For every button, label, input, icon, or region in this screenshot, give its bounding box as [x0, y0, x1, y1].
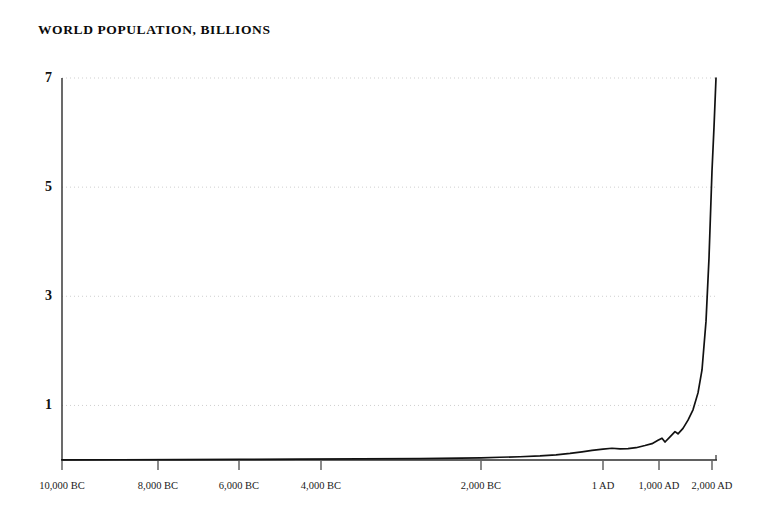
chart-figure: WORLD POPULATION, BILLIONS 1357 10,000 B…	[0, 0, 776, 521]
y-tick-label: 5	[28, 179, 52, 195]
x-tick-label: 1 AD	[592, 480, 614, 491]
x-tick-label: 8,000 BC	[138, 480, 178, 491]
x-tick-label: 4,000 BC	[301, 480, 341, 491]
y-tick-label: 7	[28, 70, 52, 86]
x-tick-marks-group	[62, 461, 712, 470]
y-tick-label: 1	[28, 397, 52, 413]
gridlines-group	[62, 78, 716, 405]
x-tick-label: 2,000 BC	[461, 480, 501, 491]
x-tick-label: 6,000 BC	[219, 480, 259, 491]
population-line-chart	[0, 0, 776, 521]
x-tick-label: 10,000 BC	[39, 480, 85, 491]
x-tick-label: 1,000 AD	[639, 480, 680, 491]
population-curve	[62, 78, 716, 460]
y-tick-label: 3	[28, 288, 52, 304]
x-tick-label: 2,000 AD	[692, 480, 733, 491]
